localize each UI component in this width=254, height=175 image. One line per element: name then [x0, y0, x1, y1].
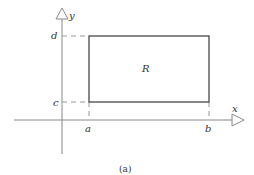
tick-c-label: c — [53, 97, 59, 108]
y-axis-arrow-icon — [56, 8, 68, 19]
figure-caption: (a) — [119, 164, 131, 174]
tick-b-label: b — [205, 123, 211, 134]
region-label: R — [141, 63, 150, 74]
guide-lines — [62, 36, 209, 120]
region-diagram: R y x d c a b (a) — [0, 0, 254, 175]
tick-d-label: d — [51, 30, 57, 41]
y-axis-label: y — [68, 10, 75, 21]
x-axis-arrow-icon — [232, 114, 244, 126]
y-axis — [56, 8, 68, 154]
tick-a-label: a — [85, 123, 91, 134]
x-axis-label: x — [232, 103, 238, 114]
